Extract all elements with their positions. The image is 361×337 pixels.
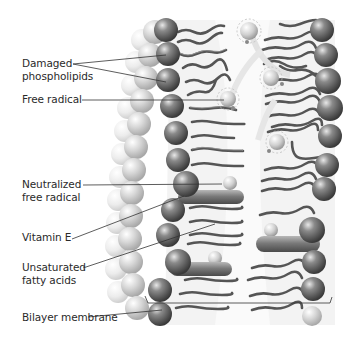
label-free-radical: Free radical (22, 93, 82, 106)
label-neutralized-free-radical: Neutralized free radical (22, 178, 81, 204)
membrane-diagram: Damaged phospholipids Free radical Neutr… (0, 0, 361, 337)
receding-heads (105, 20, 167, 320)
label-bilayer-membrane: Bilayer membrane (22, 311, 118, 324)
label-damaged-phospholipids: Damaged phospholipids (22, 57, 93, 83)
label-unsaturated-fatty-acids: Unsaturated fatty acids (22, 261, 86, 287)
label-vitamin-e: Vitamin E (22, 231, 71, 244)
